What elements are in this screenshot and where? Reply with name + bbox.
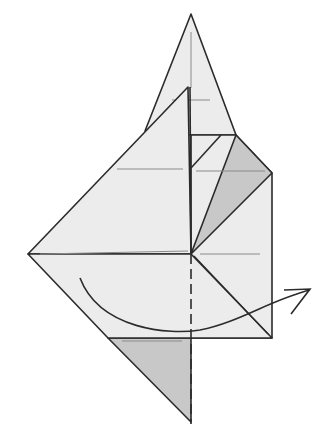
bottom-shaded-triangle (108, 338, 191, 422)
center-fold-solid (190, 87, 191, 254)
origami-diagram (0, 0, 326, 448)
arrow-head-icon (284, 289, 310, 314)
diagram-canvas (0, 0, 326, 448)
large-flap-upper (28, 87, 191, 254)
